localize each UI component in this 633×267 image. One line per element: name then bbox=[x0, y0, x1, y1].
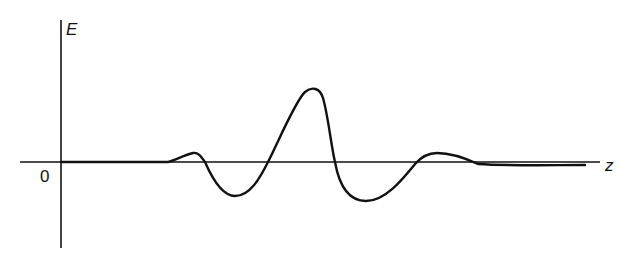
wave-curve bbox=[61, 89, 585, 201]
origin-label: 0 bbox=[40, 168, 49, 185]
y-axis-label: E bbox=[66, 21, 77, 38]
diagram-canvas: E 0 z bbox=[0, 0, 633, 267]
x-axis-label: z bbox=[605, 157, 614, 174]
wave-plot bbox=[0, 0, 633, 267]
